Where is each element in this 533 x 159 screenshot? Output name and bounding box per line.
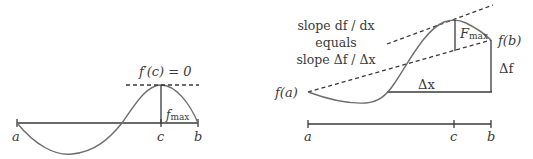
slope-text-line1: slope df / dx [297,18,374,33]
right-label-b: b [487,129,495,144]
right-Fmax-label: Fmax [459,26,488,41]
left-label-a: a [12,129,20,144]
right-delta-x-label: Δx [418,77,435,92]
left-derivative-label: f′(c) = 0 [138,64,192,79]
slope-text-line3: slope Δf / Δx [296,52,375,67]
right-label-c: c [450,129,458,144]
right-delta-f-label: Δf [499,61,514,76]
left-label-b: b [194,129,202,144]
mean-value-theorem-figure: f′(c) = 0 fmax a c b slope df / dx equal… [0,0,533,159]
left-diagram: f′(c) = 0 fmax a c b [12,64,202,154]
left-label-c: c [157,129,165,144]
right-diagram: slope df / dx equals slope Δf / Δx f(a) … [274,5,521,144]
right-label-a: a [304,129,312,144]
right-fa-label: f(a) [274,85,298,100]
right-fb-label: f(b) [497,33,521,48]
left-fmax-label: fmax [165,108,189,122]
slope-text-line2: equals [315,35,356,50]
